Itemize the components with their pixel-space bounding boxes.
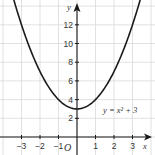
x-tick-label: 2 [112,141,117,151]
x-tick-label: −3 [17,141,27,151]
axes [0,3,152,155]
y-tick-label: 8 [68,57,73,67]
x-axis-label: x [142,141,147,151]
y-tick-label: 10 [64,39,74,49]
equation-label: y = x² + 3 [102,105,137,115]
parabola-chart: −3−2−112324681012 y = x² + 3 x y O [0,0,155,155]
y-tick-label: 2 [68,113,73,123]
x-tick-label: −1 [54,141,64,151]
y-axis-label: y [66,2,71,12]
origin-label: O [64,142,71,153]
axis-ticks: −3−2−112324681012 [17,20,135,151]
y-tick-label: 12 [64,20,74,30]
x-tick-label: 3 [130,141,135,151]
y-tick-label: 4 [68,95,73,105]
x-tick-label: −2 [35,141,45,151]
x-tick-label: 1 [93,141,98,151]
y-tick-label: 6 [68,76,73,86]
